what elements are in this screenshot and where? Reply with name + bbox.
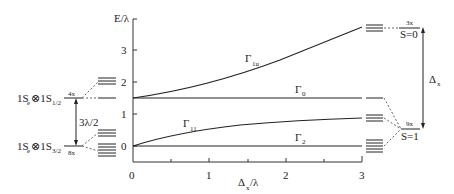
energy-level-diagram: E/λ 0 1 2 3 0 1 2 3 Δ x /λ Γ 1u Γ 0 Γ 11… xyxy=(0,0,454,194)
y-axis-label: E/λ xyxy=(114,12,130,24)
label-gamma-1u: Γ 1u xyxy=(245,52,260,68)
y-tick-0: 0 xyxy=(121,140,127,152)
label-gamma-2: Γ 2 xyxy=(295,131,306,146)
left-splitting-label: 3λ/2 xyxy=(79,116,98,128)
svg-text:⊗1S: ⊗1S xyxy=(31,92,52,104)
svg-text:Γ: Γ xyxy=(295,83,301,95)
svg-text:⊗1S: ⊗1S xyxy=(31,140,52,152)
x-tick-1: 1 xyxy=(206,169,212,181)
y-tick-1: 1 xyxy=(121,108,127,120)
right-upper-degeneracy: 3x xyxy=(406,19,414,27)
left-lower-level-label: 1S e ⊗1S 3/2 xyxy=(17,140,61,155)
x-tick-0: 0 xyxy=(129,169,135,181)
y-tick-3: 3 xyxy=(121,44,127,56)
svg-text:11: 11 xyxy=(190,125,197,133)
label-gamma-11: Γ 11 xyxy=(183,117,197,133)
svg-text:e: e xyxy=(27,99,30,107)
svg-text:2: 2 xyxy=(302,138,306,146)
svg-text:1u: 1u xyxy=(252,60,260,68)
svg-text:Γ: Γ xyxy=(295,131,301,143)
svg-text:Δ: Δ xyxy=(429,73,436,85)
svg-text:0: 0 xyxy=(302,90,306,98)
right-upper-label: S=0 xyxy=(400,28,418,40)
left-upper-level-label: 1S e ⊗1S 1/2 xyxy=(17,92,61,107)
x-tick-3: 3 xyxy=(359,169,365,181)
svg-text:1/2: 1/2 xyxy=(52,99,61,107)
x-axis-label: Δ x /λ xyxy=(238,176,259,192)
right-lower-label: S=1 xyxy=(401,130,419,142)
left-upper-degeneracy: 4x xyxy=(68,90,76,98)
x-tick-2: 2 xyxy=(283,169,289,181)
svg-text:x: x xyxy=(437,80,441,88)
right-splitting-label: Δ x xyxy=(429,73,441,88)
svg-text:Γ: Γ xyxy=(183,117,189,129)
curve-gamma-11 xyxy=(133,118,362,146)
svg-text:/λ: /λ xyxy=(250,176,259,188)
label-gamma-0: Γ 0 xyxy=(295,83,306,98)
svg-text:Δ: Δ xyxy=(238,176,245,188)
left-lower-degeneracy: 8x xyxy=(68,149,76,157)
svg-text:3/2: 3/2 xyxy=(52,147,61,155)
y-tick-2: 2 xyxy=(121,76,127,88)
right-lower-degeneracy: 9x xyxy=(406,120,414,128)
svg-text:Γ: Γ xyxy=(245,52,251,64)
svg-text:e: e xyxy=(27,147,30,155)
